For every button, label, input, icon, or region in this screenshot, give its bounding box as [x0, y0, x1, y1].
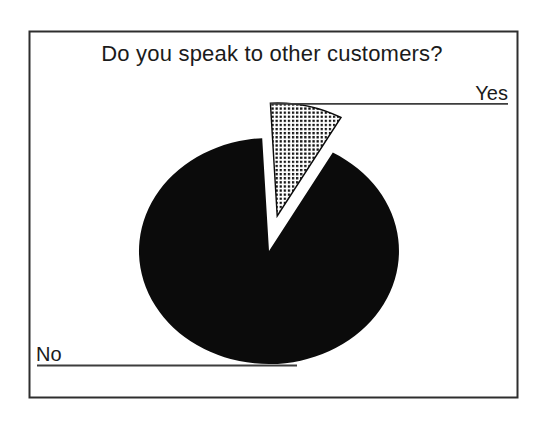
- pie-chart-figure: Do you speak to other customers? Yes No: [0, 0, 542, 422]
- no-slice-label: No: [36, 343, 62, 365]
- pie-slice-no: [139, 138, 399, 364]
- chart-title: Do you speak to other customers?: [101, 41, 442, 66]
- yes-slice-label: Yes: [475, 82, 508, 104]
- scanned-chart-page: Do you speak to other customers? Yes No: [0, 0, 542, 422]
